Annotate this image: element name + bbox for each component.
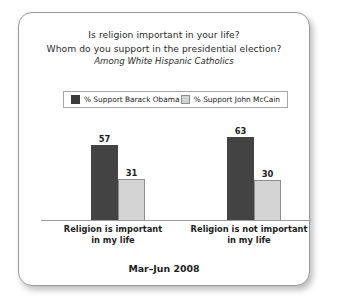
bar-obama-1 [227, 137, 254, 220]
bar-value-mccain-0: 31 [118, 168, 145, 178]
chart-title-line-2: Whom do you support in the presidential … [19, 42, 309, 56]
legend-swatch-mccain-icon [181, 95, 190, 104]
bar-obama-0 [91, 145, 118, 220]
bar-value-obama-0: 57 [91, 134, 118, 144]
legend-label-mccain: % Support John McCain [194, 95, 280, 104]
category-label-line-2: in my life [43, 235, 183, 246]
category-label-line-2: in my life [179, 235, 319, 246]
legend-label-obama: % Support Barack Obama [84, 95, 180, 104]
chart-title-block: Is religion important in your life? Whom… [19, 28, 309, 69]
legend-swatch-obama-icon [71, 95, 80, 104]
chart-footer-date: Mar–Jun 2008 [19, 263, 309, 274]
bar-wrap-obama-0: 57 [91, 145, 118, 220]
bar-pair: 57 31 [91, 145, 145, 220]
bar-value-mccain-1: 30 [254, 169, 281, 179]
chart-legend: % Support Barack Obama % Support John Mc… [63, 91, 288, 108]
bar-wrap-mccain-0: 31 [118, 179, 145, 220]
legend-item-mccain: % Support John McCain [181, 95, 280, 104]
bar-wrap-mccain-1: 30 [254, 180, 281, 220]
chart-panel: Is religion important in your life? Whom… [18, 12, 310, 286]
category-label-line-1: Religion is important [43, 224, 183, 235]
bar-value-obama-1: 63 [227, 126, 254, 136]
category-label-religion-not-important: Religion is not important in my life [179, 224, 319, 246]
bar-mccain-0 [118, 179, 145, 220]
chart-plot-area: 57 31 63 30 [41, 121, 311, 221]
category-label-religion-important: Religion is important in my life [43, 224, 183, 246]
bar-mccain-1 [254, 180, 281, 220]
chart-title-line-1: Is religion important in your life? [19, 28, 309, 42]
chart-subtitle: Among White Hispanic Catholics [19, 55, 309, 69]
bar-pair: 63 30 [227, 137, 281, 220]
legend-item-obama: % Support Barack Obama [71, 95, 180, 104]
category-label-line-1: Religion is not important [179, 224, 319, 235]
bar-wrap-obama-1: 63 [227, 137, 254, 220]
x-axis-line [41, 220, 311, 221]
